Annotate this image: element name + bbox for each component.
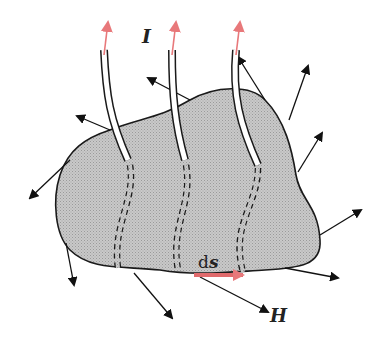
ampere-law-diagram: I H d s (0, 0, 380, 345)
ds-label-s: s (208, 252, 219, 272)
current-arrows (104, 22, 240, 55)
field-label: H (269, 305, 288, 326)
ds-label-d: d (198, 252, 209, 272)
current-label: I (141, 25, 152, 47)
